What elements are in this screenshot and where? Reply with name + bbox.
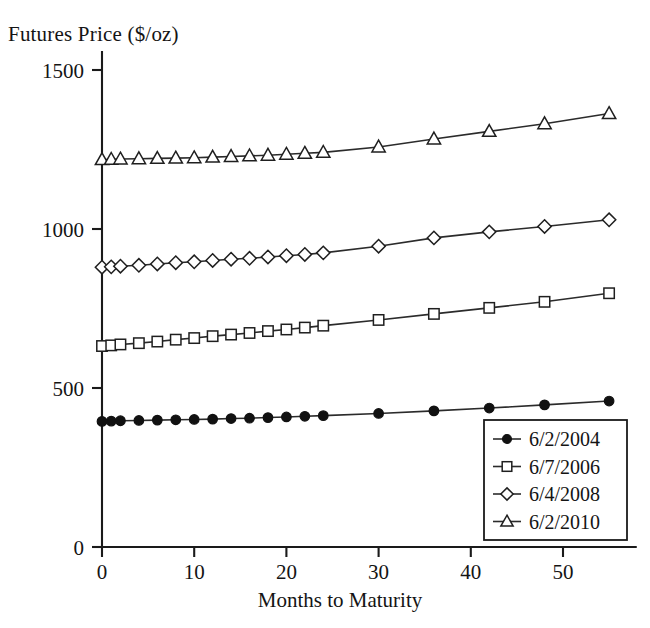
data-point-marker xyxy=(116,416,126,426)
legend-label: 6/2/2004 xyxy=(529,428,600,450)
x-tick-label: 40 xyxy=(460,560,481,584)
data-point-marker xyxy=(171,415,181,425)
data-point-marker xyxy=(318,320,328,330)
data-point-marker xyxy=(134,416,144,426)
data-point-marker xyxy=(280,249,293,262)
data-point-marker xyxy=(427,231,440,244)
data-point-marker xyxy=(281,324,291,334)
data-point-marker xyxy=(132,259,145,272)
data-point-marker xyxy=(189,415,199,425)
data-point-marker xyxy=(188,151,201,163)
y-tick-label: 500 xyxy=(53,377,85,401)
legend-label: 6/7/2006 xyxy=(529,456,600,478)
data-point-marker xyxy=(539,297,549,307)
x-tick-label: 20 xyxy=(276,560,297,584)
data-point-marker xyxy=(372,240,385,253)
data-point-marker xyxy=(171,334,181,344)
legend-marker-filled-circle xyxy=(503,435,512,444)
data-point-marker xyxy=(318,411,328,421)
data-point-marker xyxy=(317,246,330,259)
plot-area: 050010001500 01020304050 6/2/20046/7/200… xyxy=(0,0,650,628)
data-point-marker xyxy=(152,336,162,346)
legend-marker-open-square xyxy=(502,462,512,472)
series-group xyxy=(95,107,615,426)
y-tick-label: 0 xyxy=(74,536,85,560)
data-point-marker xyxy=(207,331,217,341)
y-tick-group: 050010001500 xyxy=(42,59,102,560)
y-tick-label: 1000 xyxy=(42,218,84,242)
data-point-marker xyxy=(97,417,107,427)
data-point-marker xyxy=(188,255,201,268)
legend-label: 6/2/2010 xyxy=(529,511,600,533)
data-point-marker xyxy=(115,339,125,349)
data-point-marker xyxy=(261,250,274,263)
data-point-marker xyxy=(114,260,127,273)
series-2 xyxy=(97,288,615,351)
data-point-marker xyxy=(226,329,236,339)
data-point-marker xyxy=(298,248,311,261)
data-point-marker xyxy=(151,152,164,164)
x-tick-label: 10 xyxy=(184,560,205,584)
data-point-marker xyxy=(263,413,273,423)
data-point-marker xyxy=(224,253,237,266)
data-point-marker xyxy=(153,415,163,425)
data-point-marker xyxy=(114,152,127,164)
series-3 xyxy=(95,213,615,274)
data-point-marker xyxy=(226,414,236,424)
data-point-marker xyxy=(429,406,439,416)
data-point-marker xyxy=(263,326,273,336)
x-tick-label: 0 xyxy=(97,560,108,584)
data-point-marker xyxy=(300,322,310,332)
data-point-marker xyxy=(245,413,255,423)
futures-price-chart: Futures Price ($/oz) Months to Maturity … xyxy=(0,0,650,628)
data-point-marker xyxy=(602,213,615,226)
data-point-marker xyxy=(282,412,292,422)
data-point-marker xyxy=(300,412,310,422)
data-point-marker xyxy=(243,252,256,265)
y-tick-label: 1500 xyxy=(42,59,84,83)
x-tick-label: 30 xyxy=(368,560,389,584)
data-point-marker xyxy=(208,414,218,424)
data-point-marker xyxy=(483,225,496,238)
x-tick-group: 01020304050 xyxy=(97,547,574,584)
data-point-marker xyxy=(106,416,116,426)
chart-legend: 6/2/20046/7/20066/4/20086/2/2010 xyxy=(484,420,627,540)
data-point-marker xyxy=(132,152,145,164)
data-point-marker xyxy=(604,288,614,298)
data-point-marker xyxy=(538,220,551,233)
data-point-marker xyxy=(429,309,439,319)
data-point-marker xyxy=(374,409,384,419)
data-point-marker xyxy=(224,150,237,162)
data-point-marker xyxy=(484,303,494,313)
data-point-marker xyxy=(540,400,550,410)
data-point-marker xyxy=(134,338,144,348)
series-4 xyxy=(95,107,615,165)
data-point-marker xyxy=(484,403,494,413)
data-point-marker xyxy=(169,256,182,269)
data-point-marker xyxy=(151,257,164,270)
data-point-marker xyxy=(604,396,614,406)
x-tick-label: 50 xyxy=(553,560,574,584)
data-point-marker xyxy=(602,107,615,119)
legend-label: 6/4/2008 xyxy=(529,483,600,505)
data-point-marker xyxy=(189,333,199,343)
data-point-marker xyxy=(244,328,254,338)
data-point-marker xyxy=(169,151,182,163)
data-point-marker xyxy=(373,315,383,325)
data-point-marker xyxy=(206,254,219,267)
